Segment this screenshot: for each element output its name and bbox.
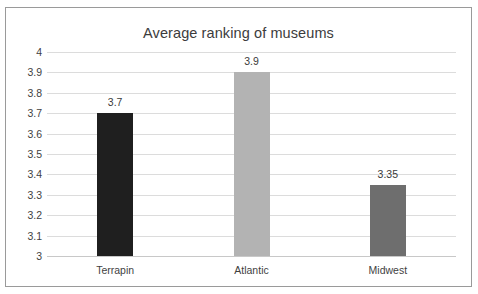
gridline bbox=[47, 256, 456, 257]
y-axis-tick-label: 3.9 bbox=[6, 66, 42, 78]
y-axis-tick-label: 3.1 bbox=[6, 230, 42, 242]
y-axis-tick-label: 3.2 bbox=[6, 209, 42, 221]
bar-terrapin bbox=[97, 113, 133, 256]
bar-midwest bbox=[370, 185, 406, 256]
data-label-midwest: 3.35 bbox=[378, 168, 398, 180]
x-axis-tick-label: Atlantic bbox=[234, 264, 268, 276]
y-axis-tick-label: 4 bbox=[6, 46, 42, 58]
y-axis-tick-label: 3.4 bbox=[6, 168, 42, 180]
y-axis-tick-label: 3.3 bbox=[6, 189, 42, 201]
gridline bbox=[47, 52, 456, 53]
x-axis: TerrapinAtlanticMidwest bbox=[47, 264, 456, 284]
x-axis-tick-label: Terrapin bbox=[96, 264, 134, 276]
y-axis-tick-label: 3.6 bbox=[6, 128, 42, 140]
y-axis: 43.93.83.73.63.53.43.33.23.13 bbox=[6, 52, 42, 256]
bar-atlantic bbox=[234, 72, 270, 256]
y-axis-tick-label: 3.8 bbox=[6, 87, 42, 99]
chart-container: Average ranking of museums 43.93.83.73.6… bbox=[5, 7, 472, 287]
chart-title: Average ranking of museums bbox=[6, 25, 471, 41]
y-axis-tick-label: 3.5 bbox=[6, 148, 42, 160]
plot-area: 3.73.93.35 bbox=[47, 52, 456, 256]
data-label-terrapin: 3.7 bbox=[108, 96, 123, 108]
x-axis-tick-label: Midwest bbox=[369, 264, 408, 276]
y-axis-tick-label: 3 bbox=[6, 250, 42, 262]
data-label-atlantic: 3.9 bbox=[244, 55, 259, 67]
y-axis-tick-label: 3.7 bbox=[6, 107, 42, 119]
